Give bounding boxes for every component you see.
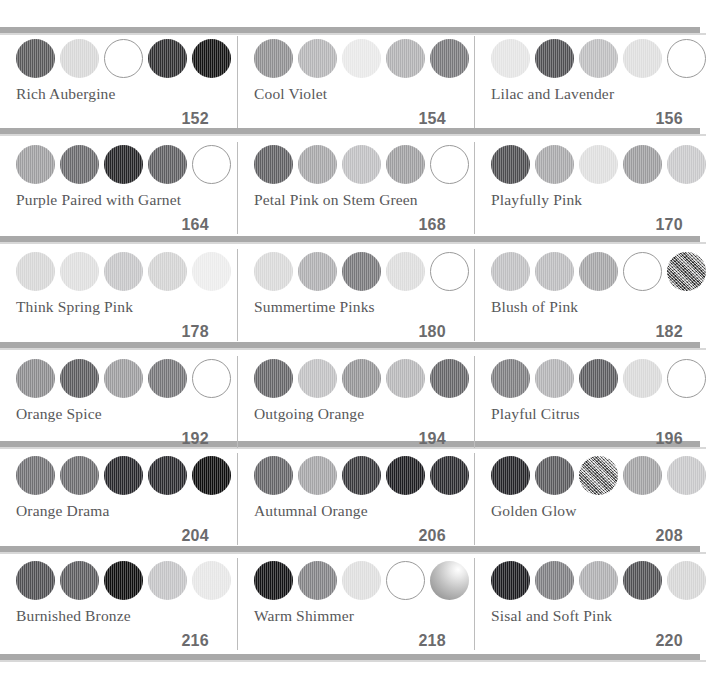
color-swatch[interactable] (623, 561, 662, 600)
color-swatch[interactable] (148, 456, 187, 495)
color-swatch[interactable] (342, 252, 381, 291)
color-swatch[interactable] (430, 145, 469, 184)
color-swatch[interactable] (491, 456, 530, 495)
color-swatch[interactable] (298, 359, 337, 398)
palette-card[interactable]: Rich Aubergine152 (0, 36, 237, 128)
color-swatch[interactable] (491, 359, 530, 398)
color-swatch[interactable] (104, 561, 143, 600)
palette-card[interactable]: Orange Spice192 (0, 356, 237, 448)
color-swatch[interactable] (623, 456, 662, 495)
color-swatch[interactable] (148, 561, 187, 600)
color-swatch[interactable] (104, 252, 143, 291)
color-swatch[interactable] (623, 359, 662, 398)
color-swatch[interactable] (386, 359, 425, 398)
color-swatch[interactable] (298, 145, 337, 184)
color-swatch[interactable] (579, 145, 618, 184)
color-swatch[interactable] (386, 145, 425, 184)
palette-card[interactable]: Playfully Pink170 (474, 142, 710, 234)
color-swatch[interactable] (16, 359, 55, 398)
color-swatch[interactable] (104, 456, 143, 495)
color-swatch[interactable] (491, 252, 530, 291)
color-swatch[interactable] (254, 456, 293, 495)
color-swatch[interactable] (16, 145, 55, 184)
palette-card[interactable]: Summertime Pinks180 (237, 249, 474, 341)
color-swatch[interactable] (60, 456, 99, 495)
color-swatch[interactable] (192, 39, 231, 78)
color-swatch[interactable] (16, 561, 55, 600)
color-swatch[interactable] (298, 39, 337, 78)
color-swatch[interactable] (491, 561, 530, 600)
color-swatch[interactable] (430, 39, 469, 78)
color-swatch[interactable] (254, 252, 293, 291)
color-swatch[interactable] (430, 561, 469, 600)
color-swatch[interactable] (430, 456, 469, 495)
palette-card[interactable]: Playful Citrus196 (474, 356, 710, 448)
color-swatch[interactable] (491, 39, 530, 78)
palette-card[interactable]: Outgoing Orange194 (237, 356, 474, 448)
color-swatch[interactable] (192, 145, 231, 184)
color-swatch[interactable] (535, 561, 574, 600)
color-swatch[interactable] (386, 456, 425, 495)
color-swatch[interactable] (104, 359, 143, 398)
color-swatch[interactable] (104, 39, 143, 78)
color-swatch[interactable] (386, 561, 425, 600)
palette-card[interactable]: Blush of Pink182 (474, 249, 710, 341)
color-swatch[interactable] (60, 39, 99, 78)
color-swatch[interactable] (60, 561, 99, 600)
color-swatch[interactable] (60, 145, 99, 184)
color-swatch[interactable] (60, 252, 99, 291)
color-swatch[interactable] (667, 145, 706, 184)
color-swatch[interactable] (16, 252, 55, 291)
palette-card[interactable]: Burnished Bronze216 (0, 558, 237, 650)
color-swatch[interactable] (342, 561, 381, 600)
palette-card[interactable]: Orange Drama204 (0, 453, 237, 545)
color-swatch[interactable] (298, 561, 337, 600)
color-swatch[interactable] (298, 456, 337, 495)
color-swatch[interactable] (254, 359, 293, 398)
color-swatch[interactable] (535, 39, 574, 78)
color-swatch[interactable] (342, 39, 381, 78)
color-swatch[interactable] (430, 359, 469, 398)
color-swatch[interactable] (579, 39, 618, 78)
color-swatch[interactable] (60, 359, 99, 398)
color-swatch[interactable] (667, 456, 706, 495)
color-swatch[interactable] (254, 145, 293, 184)
color-swatch[interactable] (254, 561, 293, 600)
color-swatch[interactable] (386, 39, 425, 78)
color-swatch[interactable] (623, 252, 662, 291)
color-swatch[interactable] (667, 359, 706, 398)
color-swatch[interactable] (430, 252, 469, 291)
color-swatch[interactable] (535, 145, 574, 184)
color-swatch[interactable] (342, 359, 381, 398)
palette-card[interactable]: Purple Paired with Garnet164 (0, 142, 237, 234)
color-swatch[interactable] (192, 359, 231, 398)
color-swatch[interactable] (342, 145, 381, 184)
color-swatch[interactable] (667, 252, 706, 291)
color-swatch[interactable] (298, 252, 337, 291)
color-swatch[interactable] (148, 359, 187, 398)
color-swatch[interactable] (192, 456, 231, 495)
color-swatch[interactable] (579, 359, 618, 398)
color-swatch[interactable] (148, 39, 187, 78)
palette-card[interactable]: Golden Glow208 (474, 453, 710, 545)
color-swatch[interactable] (667, 39, 706, 78)
color-swatch[interactable] (342, 456, 381, 495)
color-swatch[interactable] (667, 561, 706, 600)
color-swatch[interactable] (535, 252, 574, 291)
color-swatch[interactable] (579, 252, 618, 291)
color-swatch[interactable] (104, 145, 143, 184)
color-swatch[interactable] (148, 252, 187, 291)
color-swatch[interactable] (491, 145, 530, 184)
palette-card[interactable]: Autumnal Orange206 (237, 453, 474, 545)
palette-card[interactable]: Think Spring Pink178 (0, 249, 237, 341)
palette-card[interactable]: Lilac and Lavender156 (474, 36, 710, 128)
palette-card[interactable]: Cool Violet154 (237, 36, 474, 128)
color-swatch[interactable] (535, 359, 574, 398)
palette-card[interactable]: Warm Shimmer218 (237, 558, 474, 650)
color-swatch[interactable] (579, 561, 618, 600)
color-swatch[interactable] (16, 456, 55, 495)
color-swatch[interactable] (579, 456, 618, 495)
color-swatch[interactable] (623, 145, 662, 184)
color-swatch[interactable] (192, 252, 231, 291)
color-swatch[interactable] (535, 456, 574, 495)
